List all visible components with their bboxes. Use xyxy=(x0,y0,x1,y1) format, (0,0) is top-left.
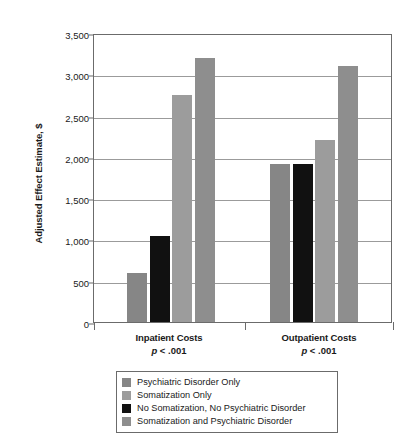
legend-swatch xyxy=(122,417,131,426)
y-axis-tick-label: 1,500 xyxy=(65,195,89,206)
legend-item: No Somatization, No Psychiatric Disorder xyxy=(122,402,332,415)
category-separator-tick xyxy=(245,322,246,330)
legend-item: Somatization Only xyxy=(122,389,332,402)
y-axis-tick-label: 3,500 xyxy=(65,30,89,41)
legend-swatch xyxy=(122,391,131,400)
y-axis-tick-mark xyxy=(89,35,94,36)
y-axis-title: Adjusted Effect Estimate, $ xyxy=(33,84,44,284)
legend-swatch xyxy=(122,404,131,413)
category-name: Outpatient Costs xyxy=(282,332,357,343)
y-axis-tick-label: 2,000 xyxy=(65,153,89,164)
bar xyxy=(338,66,358,322)
chart-legend: Psychiatric Disorder OnlySomatization On… xyxy=(116,371,338,433)
legend-label: Psychiatric Disorder Only xyxy=(137,377,240,388)
y-axis-tick-label: 500 xyxy=(73,277,89,288)
y-axis-tick-mark xyxy=(89,200,94,201)
legend-swatch xyxy=(122,378,131,387)
bar xyxy=(172,95,192,322)
y-axis-tick-label: 3,000 xyxy=(65,71,89,82)
legend-label: Somatization Only xyxy=(137,390,212,401)
legend-label: No Somatization, No Psychiatric Disorder xyxy=(137,403,306,414)
category-name: Inpatient Costs xyxy=(135,332,202,343)
y-axis-tick-mark xyxy=(89,158,94,159)
category-separator-tick xyxy=(94,322,95,330)
bar-chart-figure: Adjusted Effect Estimate, $ 3,5003,0002,… xyxy=(0,0,415,447)
y-axis-tick-mark xyxy=(89,282,94,283)
category-separator-tick xyxy=(393,322,394,330)
bar xyxy=(195,58,215,322)
bar xyxy=(127,273,147,322)
y-axis-tick-label: 0 xyxy=(84,319,89,330)
y-axis-tick-label: 1,000 xyxy=(65,236,89,247)
bar xyxy=(270,164,290,322)
category-pvalue: p < .001 xyxy=(282,345,357,356)
legend-item: Psychiatric Disorder Only xyxy=(122,376,332,389)
category-pvalue: p < .001 xyxy=(135,345,202,356)
bar xyxy=(315,140,335,322)
y-axis-tick-mark xyxy=(89,117,94,118)
y-axis-tick-mark xyxy=(89,76,94,77)
bar xyxy=(293,164,313,322)
x-axis-category-label: Outpatient Costsp < .001 xyxy=(282,332,357,356)
bar xyxy=(150,236,170,322)
legend-item: Somatization and Psychiatric Disorder xyxy=(122,415,332,428)
x-axis-category-label: Inpatient Costsp < .001 xyxy=(135,332,202,356)
plot-area: 3,5003,0002,5002,0001,5001,0005000Inpati… xyxy=(93,34,392,323)
y-axis-tick-label: 2,500 xyxy=(65,112,89,123)
y-axis-tick-mark xyxy=(89,241,94,242)
legend-label: Somatization and Psychiatric Disorder xyxy=(137,416,292,427)
